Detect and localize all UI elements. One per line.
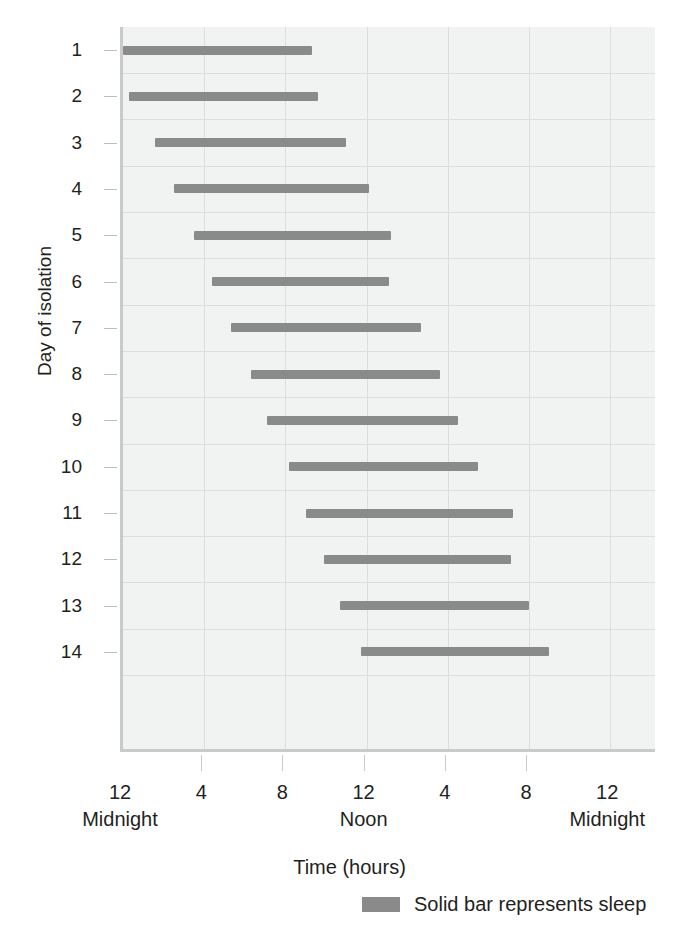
sleep-bar [306,509,513,518]
sleep-bar [324,555,511,564]
y-axis: 1234567891011121314 [0,27,120,752]
horizontal-gridline [123,212,655,213]
sleep-bar [231,323,422,332]
sleep-bar [361,647,550,656]
sleep-bar [251,370,440,379]
legend: Solid bar represents sleep [362,893,646,916]
x-tick-number: 8 [496,781,556,803]
vertical-gridline [204,27,205,749]
x-tick-number: 4 [171,781,231,803]
y-tick-mark [104,235,117,236]
sleep-bar [340,601,529,610]
x-tick-number: 4 [415,781,475,803]
sleep-bar [212,277,389,286]
sleep-bar [155,138,346,147]
y-tick-mark [104,143,117,144]
y-tick-label-day-1: 1 [42,40,82,59]
x-tick-number: 8 [252,781,312,803]
sleep-bar [194,231,391,240]
x-tick-mark [526,755,527,771]
horizontal-gridline [123,305,655,306]
y-tick-mark [104,50,117,51]
y-tick-label-day-4: 4 [42,179,82,198]
horizontal-gridline [123,258,655,259]
x-tick-number: 12 [90,781,150,803]
x-tick-mark [282,755,283,771]
sleep-bar [174,184,369,193]
sleep-bar [267,416,458,425]
vertical-gridline [285,27,286,749]
horizontal-gridline [123,444,655,445]
vertical-gridline [610,27,611,749]
x-tick-mark [201,755,202,771]
y-tick-mark [104,513,117,514]
y-tick-mark [104,328,117,329]
y-tick-label-day-11: 11 [42,503,82,522]
y-tick-mark [104,189,117,190]
horizontal-gridline [123,166,655,167]
x-tick-number: 12 [334,781,394,803]
y-tick-label-day-14: 14 [42,642,82,661]
plot-inner [123,27,655,749]
horizontal-gridline [123,675,655,676]
horizontal-gridline [123,629,655,630]
legend-label-sleep: Solid bar represents sleep [414,893,646,916]
legend-swatch-sleep [362,897,400,912]
horizontal-gridline [123,490,655,491]
y-tick-mark [104,559,117,560]
horizontal-gridline [123,536,655,537]
horizontal-gridline [123,397,655,398]
sleep-isolation-chart: 1234567891011121314 Day of isolation 12M… [0,0,699,938]
vertical-gridline [448,27,449,749]
plot-area [120,27,655,752]
x-axis-title: Time (hours) [0,856,699,879]
x-axis: 12Midnight4812Noon4812Midnight [120,752,655,862]
y-tick-label-day-12: 12 [42,549,82,568]
horizontal-gridline [123,73,655,74]
x-tick-sublabel: Midnight [537,808,677,830]
vertical-gridline [529,27,530,749]
x-tick-sublabel: Noon [294,808,434,830]
sleep-bar [129,92,318,101]
x-tick-sublabel: Midnight [50,808,190,830]
y-tick-mark [104,606,117,607]
x-tick-number: 12 [577,781,637,803]
y-tick-label-day-9: 9 [42,410,82,429]
y-tick-label-day-13: 13 [42,596,82,615]
y-tick-mark [104,374,117,375]
y-tick-mark [104,420,117,421]
horizontal-gridline [123,582,655,583]
horizontal-gridline [123,119,655,120]
vertical-gridline [367,27,368,749]
sleep-bar [289,462,478,471]
x-tick-mark [445,755,446,771]
horizontal-gridline [123,351,655,352]
sleep-bar [123,46,312,55]
x-tick-mark [364,755,365,771]
y-tick-mark [104,652,117,653]
y-tick-mark [104,282,117,283]
y-tick-label-day-10: 10 [42,457,82,476]
y-tick-mark [104,467,117,468]
y-axis-title: Day of isolation [34,211,56,411]
y-tick-label-day-2: 2 [42,86,82,105]
y-tick-label-day-3: 3 [42,133,82,152]
y-tick-mark [104,96,117,97]
